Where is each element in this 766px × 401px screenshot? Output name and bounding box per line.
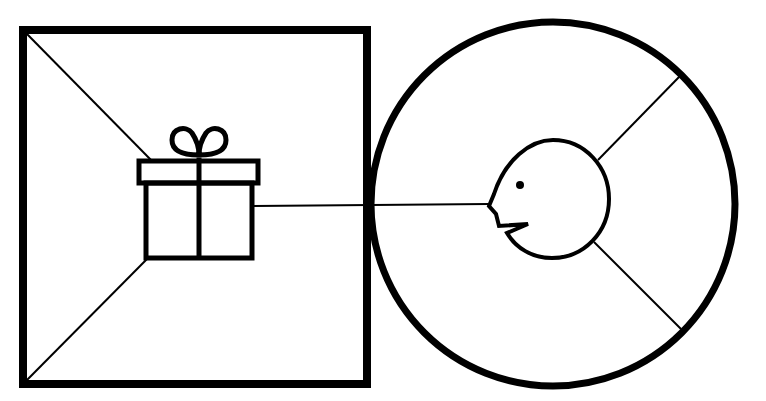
radial-line-top-right [598,76,680,160]
face-outline [489,140,609,258]
square-room [23,30,367,384]
diagram-canvas [0,0,766,401]
gift-bow-left [172,129,199,155]
gift-icon [139,129,258,258]
perspective-line-bottom-left [27,259,147,380]
eye-icon [516,181,524,189]
radial-line-bottom-right [594,242,681,329]
face-profile-icon [489,140,609,258]
gift-bow-right [199,129,226,155]
perspective-line-top-left [27,34,151,160]
